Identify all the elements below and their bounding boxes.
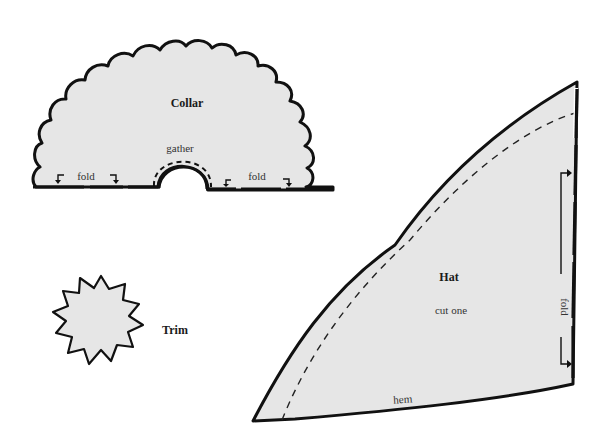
trim-star-outline: [53, 276, 143, 364]
hat-fold-label: fold: [559, 298, 571, 316]
pattern-diagram: Collar gather fold fold Trim Hat cu: [0, 0, 609, 446]
gather-label: gather: [166, 142, 194, 154]
hem-label: hem: [393, 392, 413, 405]
hat-title: Hat: [439, 270, 458, 284]
trim-piece: Trim: [53, 276, 188, 364]
trim-title: Trim: [162, 323, 188, 337]
collar-fold-label-left: fold: [77, 170, 95, 182]
collar-fold-label-right: fold: [248, 170, 266, 182]
hat-instruction: cut one: [435, 304, 467, 316]
collar-title: Collar: [171, 96, 204, 110]
collar-piece: Collar gather fold fold: [33, 41, 334, 190]
